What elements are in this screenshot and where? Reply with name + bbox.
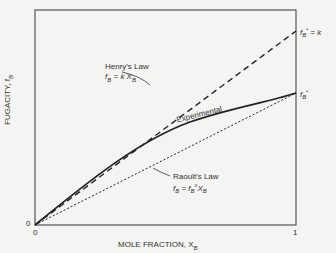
henry-law-equation: fB = k XB xyxy=(105,72,136,83)
raoult-law-title: Raoult's Law xyxy=(173,172,219,181)
y-origin-label: 0 xyxy=(26,219,30,228)
chart-canvas xyxy=(0,0,336,253)
x-origin-label: 0 xyxy=(33,228,37,237)
y-axis-title: FUGACITY, fB xyxy=(3,75,14,125)
x-one-label: 1 xyxy=(293,228,297,237)
henry-end-label: fB• = k xyxy=(300,26,321,38)
raoult-pointer xyxy=(153,168,170,176)
raoult-law-line xyxy=(35,93,296,225)
raoult-law-equation: fB = fBoXB xyxy=(173,182,207,194)
henry-law-line xyxy=(35,31,296,225)
raoult-end-label: fB• xyxy=(300,88,308,100)
henry-law-title: Henry's Law xyxy=(105,62,149,71)
x-axis-title: MOLE FRACTION, XB xyxy=(118,240,198,251)
